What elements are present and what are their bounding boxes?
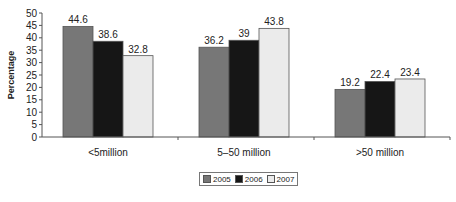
data-label: 23.4 — [400, 67, 420, 78]
y-tick-label: 20 — [26, 82, 38, 93]
data-label: 44.6 — [68, 14, 88, 25]
legend: 2005 2006 2007 — [199, 172, 298, 186]
y-tick-label: 50 — [26, 8, 38, 19]
x-category-label: >50 million — [356, 147, 404, 158]
legend-item-2006: 2006 — [235, 175, 263, 184]
bar-2006-1 — [229, 40, 259, 137]
legend-swatch-2007 — [267, 175, 275, 183]
legend-label-2006: 2006 — [245, 175, 263, 184]
data-label: 39 — [238, 28, 250, 39]
bars: 44.638.632.836.23943.819.222.423.4 — [63, 14, 425, 137]
y-axis-label: Percentage — [6, 51, 16, 100]
data-label: 43.8 — [264, 16, 284, 27]
x-axis: <5million5–50 million>50 million — [42, 137, 450, 158]
data-label: 22.4 — [370, 69, 390, 80]
legend-swatch-2006 — [235, 175, 243, 183]
y-tick-label: 40 — [26, 32, 38, 43]
data-label: 19.2 — [340, 77, 360, 88]
x-category-label: <5million — [88, 147, 128, 158]
y-tick-label: 25 — [26, 70, 38, 81]
bar-2006-0 — [93, 41, 123, 137]
legend-label-2005: 2005 — [213, 175, 231, 184]
y-tick-label: 0 — [31, 132, 37, 143]
legend-item-2005: 2005 — [203, 175, 231, 184]
bar-2006-2 — [365, 81, 395, 137]
bar-2005-2 — [335, 89, 365, 137]
bar-2007-2 — [395, 79, 425, 137]
x-category-label: 5–50 million — [217, 147, 270, 158]
bar-2005-0 — [63, 26, 93, 137]
bar-2007-1 — [259, 28, 289, 137]
y-tick-label: 10 — [26, 107, 38, 118]
legend-swatch-2005 — [203, 175, 211, 183]
y-tick-label: 30 — [26, 57, 38, 68]
y-tick-label: 5 — [31, 119, 37, 130]
y-axis: 05101520253035404550 — [26, 8, 42, 143]
data-label: 38.6 — [98, 29, 118, 40]
y-tick-label: 45 — [26, 20, 38, 31]
bar-2007-0 — [123, 56, 153, 137]
legend-item-2007: 2007 — [267, 175, 295, 184]
data-label: 32.8 — [128, 44, 148, 55]
bar-2005-1 — [199, 47, 229, 137]
y-tick-label: 35 — [26, 45, 38, 56]
y-tick-label: 15 — [26, 94, 38, 105]
legend-label-2007: 2007 — [277, 175, 295, 184]
data-label: 36.2 — [204, 35, 224, 46]
